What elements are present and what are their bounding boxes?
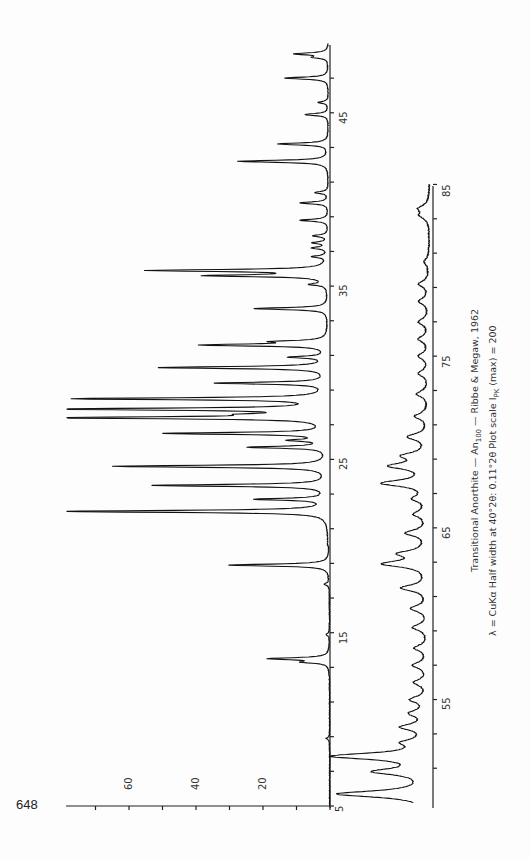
upper-tick-label-5: 5 [334,806,345,812]
intensity-tick-label-20: 20 [257,777,268,790]
caption-conditions-suffix: (max) = 200 [487,325,498,388]
caption-title-prefix: Transitional Anorthite — An [469,442,480,573]
caption-conditions-prefix: λ = CuKα Half width at 40°2θ: 0.11°2θ Pl… [487,398,498,636]
xrd-pattern-chart: 60 40 20 5 15 25 35 45 55 65 75 85 Trans… [0,0,531,859]
lower-tick-label-65: 65 [441,526,452,539]
two-theta-axis-lower: 55 65 75 85 [433,184,452,808]
upper-tick-label-25: 25 [338,457,349,470]
upper-tick-label-45: 45 [338,111,349,124]
lower-tick-label-75: 75 [441,355,452,368]
intensity-tick-label-40: 40 [190,777,201,790]
upper-diffraction-trace [67,44,330,807]
caption-title-suffix: — Ribbe & Megaw, 1962 [469,309,480,429]
caption-title: Transitional Anorthite — An100 — Ribbe &… [469,309,483,573]
upper-tick-label-15: 15 [338,631,349,644]
intensity-axis: 60 40 20 [66,777,330,810]
caption-title-subscript: 100 [475,429,483,442]
two-theta-axis-upper: 5 15 25 35 45 [330,45,349,812]
lower-diffraction-trace [330,184,429,802]
lower-tick-label-85: 85 [441,184,452,197]
caption-conditions: λ = CuKα Half width at 40°2θ: 0.11°2θ Pl… [487,325,501,636]
document-page: 648 60 40 20 5 15 25 35 45 55 65 75 85 [0,0,531,859]
upper-tick-label-35: 35 [338,284,349,297]
intensity-tick-label-60: 60 [123,777,134,790]
lower-tick-label-55: 55 [441,697,452,710]
